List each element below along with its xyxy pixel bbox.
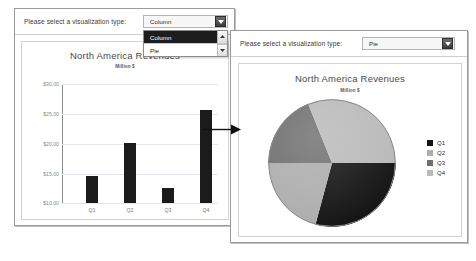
legend-label-q3: Q3 xyxy=(437,160,445,166)
dropdown-option-column[interactable]: Column xyxy=(144,31,227,43)
right-selector-label: Please select a visualization type: xyxy=(240,40,342,47)
gridline: $10.00 xyxy=(62,203,218,204)
gridline: $20.00 xyxy=(62,144,218,145)
visualization-type-combobox-left[interactable]: Column xyxy=(143,15,228,28)
chart-subtitle-left: Million $ xyxy=(22,64,228,69)
combobox-value-left: Column xyxy=(144,18,215,25)
legend-label-q4: Q4 xyxy=(437,170,445,176)
y-tick-label: $10.00 xyxy=(43,200,59,206)
dropdown-scrollbar[interactable] xyxy=(217,31,227,56)
column-chart-panel: Please select a visualization type: Colu… xyxy=(14,8,235,226)
legend-item-q1: Q1 xyxy=(427,138,445,148)
legend-label-q1: Q1 xyxy=(437,140,445,146)
chart-subtitle-right: Million $ xyxy=(239,88,461,93)
gridline: $25.00 xyxy=(62,114,218,115)
legend-item-q3: Q3 xyxy=(427,158,445,168)
gridline: $15.00 xyxy=(62,174,218,175)
flow-arrow-icon xyxy=(203,122,241,135)
legend-swatch-q2 xyxy=(427,150,433,156)
x-tick-label: Q4 xyxy=(203,207,210,213)
visualization-type-dropdown-list[interactable]: Column Pie xyxy=(143,30,228,57)
pie-chart-panel: Please select a visualization type: Pie … xyxy=(230,30,468,243)
legend-swatch-q4 xyxy=(427,170,433,176)
y-tick-label: $15.00 xyxy=(43,171,59,177)
dropdown-option-pie[interactable]: Pie xyxy=(144,44,227,56)
chart-title-right: North America Revenues xyxy=(239,73,461,84)
pie-chart-area: North America Revenues Million $ xyxy=(238,63,462,237)
legend-item-q2: Q2 xyxy=(427,148,445,158)
x-tick-label: Q1 xyxy=(89,207,96,213)
x-tick-label: Q3 xyxy=(165,207,172,213)
legend-swatch-q1 xyxy=(427,140,433,146)
scroll-up-arrow-icon[interactable] xyxy=(218,31,227,44)
bar-q2 xyxy=(124,143,136,203)
combobox-value-right: Pie xyxy=(363,40,442,47)
bar-q3 xyxy=(162,188,174,203)
pie-legend: Q1 Q2 Q3 Q4 xyxy=(427,138,445,178)
visualization-type-combobox-right[interactable]: Pie xyxy=(362,37,455,50)
y-tick-label: $20.00 xyxy=(43,141,59,147)
scroll-down-arrow-icon[interactable] xyxy=(218,44,227,57)
column-chart-area: North America Revenues Million $ $30.00 … xyxy=(21,41,229,220)
pie-graphic xyxy=(268,99,396,227)
column-plot: $30.00 $25.00 $20.00 $15.00 $10.00 Q1 Q2… xyxy=(62,84,218,204)
chevron-down-icon[interactable] xyxy=(215,16,226,27)
left-selector-label: Please select a visualization type: xyxy=(24,18,126,25)
y-tick-label: $25.00 xyxy=(43,111,59,117)
legend-item-q4: Q4 xyxy=(427,168,445,178)
legend-swatch-q3 xyxy=(427,160,433,166)
right-selector-row: Please select a visualization type: Pie xyxy=(231,31,467,57)
bar-q1 xyxy=(86,176,98,203)
y-tick-label: $30.00 xyxy=(43,81,59,87)
legend-label-q2: Q2 xyxy=(437,150,445,156)
gridline: $30.00 xyxy=(62,84,218,85)
x-tick-label: Q2 xyxy=(127,207,134,213)
chevron-down-icon[interactable] xyxy=(442,38,453,49)
